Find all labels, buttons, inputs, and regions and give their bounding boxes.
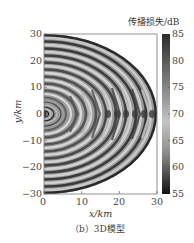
colorbar-tick-label: 80 <box>172 56 184 66</box>
y-tick-label: −20 <box>22 162 42 172</box>
x-tick-label: 20 <box>113 197 125 207</box>
y-tick-label: 10 <box>30 82 42 92</box>
y-tick-label: 20 <box>30 56 42 66</box>
colorbar-tick-label: 75 <box>172 82 184 92</box>
x-axis-label: x/km <box>89 208 112 219</box>
colorbar-tick-label: 60 <box>172 162 184 172</box>
y-axis-label: y/km <box>12 100 23 123</box>
x-tick-label: 0 <box>40 197 46 207</box>
colorbar-tick-label: 55 <box>172 189 184 199</box>
colorbar-tick-label: 65 <box>172 136 184 146</box>
colorbar-tick-label: 85 <box>172 29 184 39</box>
figure-caption: （b）3D模型 <box>70 222 125 235</box>
x-axis-label-text: x/km <box>89 208 112 219</box>
y-tick-label: −10 <box>22 136 42 146</box>
y-tick-label: 30 <box>30 29 42 39</box>
y-tick-label: 0 <box>36 109 42 119</box>
x-tick-label: 30 <box>151 197 163 207</box>
colorbar-tick-label: 70 <box>172 109 184 119</box>
x-tick-label: 10 <box>76 197 88 207</box>
y-tick-label: −30 <box>22 189 42 199</box>
